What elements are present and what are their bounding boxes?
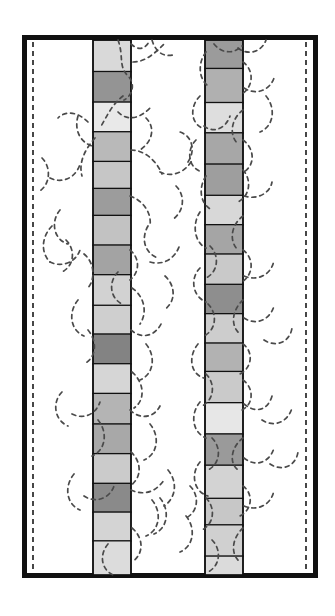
right-column-segment-9 (205, 284, 243, 314)
right-column-segment-10 (205, 314, 243, 344)
left-column-segment-16 (93, 483, 131, 512)
left-column-segment-5 (93, 161, 131, 188)
left-column-segment-4 (93, 132, 131, 162)
right-column-segment-17 (205, 525, 243, 557)
right-column-segment-3 (205, 102, 243, 133)
left-column-segment-15 (93, 454, 131, 484)
right-column-segment-4 (205, 133, 243, 165)
right-column-segment-2 (205, 68, 243, 102)
left-column-segment-1 (93, 40, 131, 72)
left-soil-column (93, 40, 131, 575)
figure-canvas (0, 0, 335, 616)
right-column-segment-5 (205, 164, 243, 196)
left-column-segment-10 (93, 305, 131, 334)
right-column-segment-6 (205, 195, 243, 225)
right-column-segment-11 (205, 343, 243, 372)
right-column-segment-15 (205, 465, 243, 499)
left-column-segment-18 (93, 541, 131, 576)
left-column-segment-2 (93, 71, 131, 102)
right-column-segment-8 (205, 254, 243, 285)
right-column-segment-14 (205, 434, 243, 466)
right-column-segment-1 (205, 40, 243, 69)
right-column-segment-13 (205, 403, 243, 435)
left-column-segment-8 (93, 245, 131, 275)
right-column-segment-7 (205, 225, 243, 255)
left-column-segment-7 (93, 215, 131, 245)
left-column-segment-17 (93, 512, 131, 541)
left-column-segment-11 (93, 334, 131, 364)
left-column-segment-12 (93, 364, 131, 394)
left-column-segment-6 (93, 188, 131, 215)
soil-column-figure (0, 0, 335, 616)
left-column-segment-14 (93, 424, 131, 454)
